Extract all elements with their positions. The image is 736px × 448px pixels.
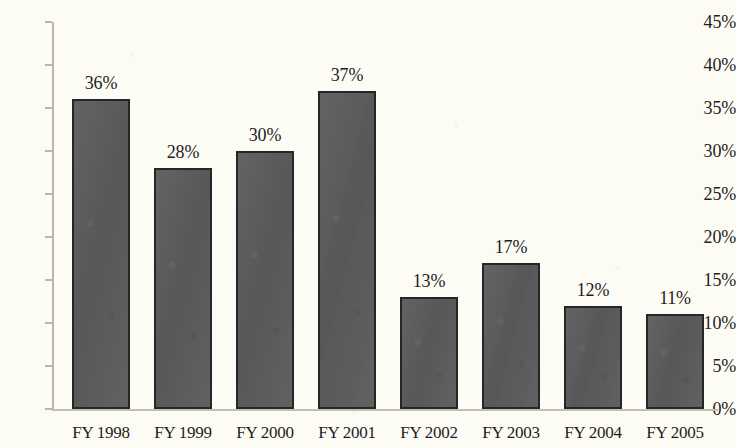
y-axis-tick-label: 30% xyxy=(692,141,736,162)
y-axis-tick-label: 20% xyxy=(692,227,736,248)
y-axis-tick-mark xyxy=(45,365,52,367)
bar-value-label: 28% xyxy=(138,142,228,163)
x-axis-tick-label: FY 2004 xyxy=(550,423,636,443)
y-axis-tick-mark xyxy=(45,21,52,23)
bar-value-label: 37% xyxy=(302,65,392,86)
bar xyxy=(318,91,376,409)
bar-chart: 0%5%10%15%20%25%30%35%40%45% 36%28%30%37… xyxy=(0,0,736,448)
y-axis-tick-label: 40% xyxy=(692,55,736,76)
bar xyxy=(400,297,458,409)
x-axis-tick-label: FY 2003 xyxy=(468,423,554,443)
x-axis-tick-label: FY 2001 xyxy=(304,423,390,443)
bar-value-label: 12% xyxy=(548,280,638,301)
bar-value-label: 13% xyxy=(384,271,474,292)
y-axis-tick-label: 45% xyxy=(692,12,736,33)
y-axis-tick-label: 15% xyxy=(692,270,736,291)
bar-value-label: 30% xyxy=(220,125,310,146)
x-axis-line xyxy=(52,409,718,411)
x-axis-tick-label: FY 2002 xyxy=(386,423,472,443)
y-axis-tick-mark xyxy=(45,64,52,66)
bar xyxy=(154,168,212,409)
bar-value-label: 11% xyxy=(630,288,720,309)
bar-value-label: 17% xyxy=(466,237,556,258)
y-axis-tick-label: 25% xyxy=(692,184,736,205)
y-axis-tick-mark xyxy=(45,279,52,281)
y-axis-tick-mark xyxy=(45,408,52,410)
x-axis-tick-label: FY 2005 xyxy=(632,423,718,443)
x-axis-tick-label: FY 1999 xyxy=(140,423,226,443)
y-axis-line xyxy=(52,22,54,409)
y-axis-tick-mark xyxy=(45,150,52,152)
bar xyxy=(482,263,540,409)
bar xyxy=(236,151,294,409)
bar xyxy=(72,99,130,409)
y-axis-tick-mark xyxy=(45,193,52,195)
y-axis-tick-mark xyxy=(45,107,52,109)
bar xyxy=(564,306,622,409)
x-axis-tick-label: FY 1998 xyxy=(58,423,144,443)
x-axis-tick-label: FY 2000 xyxy=(222,423,308,443)
y-axis-tick-mark xyxy=(45,236,52,238)
y-axis-tick-mark xyxy=(45,322,52,324)
bar xyxy=(646,314,704,409)
bar-value-label: 36% xyxy=(56,73,146,94)
y-axis-tick-label: 35% xyxy=(692,98,736,119)
